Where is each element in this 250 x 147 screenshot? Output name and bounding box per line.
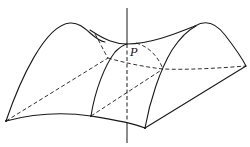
cross-section-curve <box>108 58 246 69</box>
middle-arch <box>91 44 127 116</box>
saddle-surface-diagram: P <box>0 0 250 147</box>
left-corner-point <box>5 120 7 122</box>
left-inner-curve <box>95 34 108 58</box>
right-outer-arc <box>195 23 246 66</box>
middle-bottom-point <box>90 115 92 117</box>
top-saddle-curve <box>90 26 195 44</box>
left-outer-arc <box>6 23 105 121</box>
p-arc-dashed <box>136 43 163 69</box>
left-diagonal-dashed <box>6 58 108 121</box>
bottom-front-edge <box>6 114 145 128</box>
front-corner-point <box>144 127 146 129</box>
point-p-label: P <box>129 46 138 59</box>
